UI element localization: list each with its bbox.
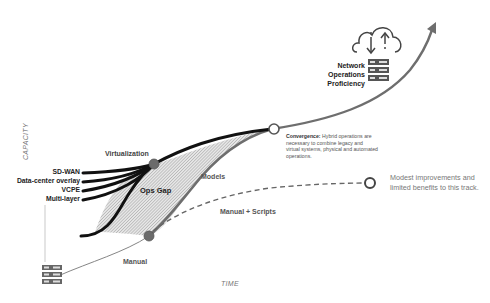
scripts-end-node bbox=[365, 178, 375, 188]
ops-gap-label: Ops Gap bbox=[140, 186, 171, 195]
diagram-canvas bbox=[0, 0, 490, 303]
y-axis-label: CAPACITY bbox=[22, 123, 29, 160]
capacity-time-diagram: CAPACITY TIME Network Operations Profici… bbox=[0, 0, 490, 303]
manual-curve bbox=[58, 236, 149, 276]
convergence-description: Convergence: Hybrid operations are neces… bbox=[286, 133, 378, 159]
manual-scripts-label: Manual + Scripts bbox=[220, 208, 276, 215]
proficiency-line-1: Network bbox=[325, 61, 365, 70]
server-rack-icon bbox=[368, 59, 389, 81]
virtualization-node bbox=[149, 159, 159, 169]
tech-label-sdwan: SD-WAN bbox=[52, 168, 80, 175]
manual-node bbox=[144, 231, 154, 241]
proficiency-label: Network Operations Proficiency bbox=[325, 61, 365, 88]
convergence-node bbox=[269, 124, 279, 134]
x-axis bbox=[58, 284, 425, 285]
tech-label-multi-layer: Multi-layer bbox=[46, 195, 80, 202]
server-rack-small-icon bbox=[42, 265, 62, 284]
models-label: Models bbox=[201, 173, 225, 180]
proficiency-line-3: Proficiency bbox=[325, 79, 365, 88]
tech-label-vcpe: VCPE bbox=[61, 186, 80, 193]
scripts-note: Modest improvements and limited benefits… bbox=[390, 173, 482, 193]
tech-label-datacenter-overlay: Data-center overlay bbox=[17, 177, 80, 184]
convergence-title: Convergence: bbox=[286, 133, 321, 139]
manual-label: Manual bbox=[123, 258, 147, 265]
proficiency-line-2: Operations bbox=[325, 70, 365, 79]
x-axis-label: TIME bbox=[221, 280, 239, 287]
cloud-sync-icon bbox=[353, 28, 401, 53]
virtualization-label: Virtualization bbox=[105, 150, 149, 157]
